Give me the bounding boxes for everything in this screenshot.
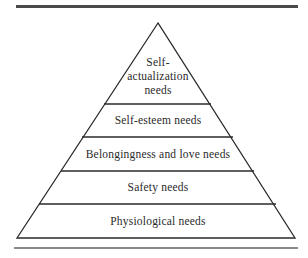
level-label-line: needs (108, 83, 208, 97)
level-self-esteem: Self-esteem needs (90, 113, 226, 127)
level-label-line: Self- (108, 55, 208, 69)
level-self-actualization: Self- actualization needs (108, 55, 208, 97)
level-safety: Safety needs (90, 180, 226, 194)
bottom-rule (14, 247, 298, 249)
level-belongingness: Belongingness and love needs (62, 147, 254, 161)
level-label-line: actualization (108, 69, 208, 83)
level-physiological: Physiological needs (60, 214, 256, 228)
